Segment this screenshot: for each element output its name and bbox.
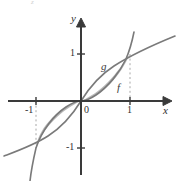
x-tick-label-positive-one: 1 [127, 105, 132, 115]
x-tick-label-negative-one: -1 [25, 105, 33, 115]
curve-label-f: f [117, 82, 120, 93]
y-tick-label-positive-one: 1 [70, 48, 75, 58]
x-axis-label: x [163, 105, 168, 116]
y-tick-label-negative-one: -1 [66, 142, 74, 152]
graph-canvas [0, 0, 177, 181]
curve-g [4, 36, 175, 156]
shaded-region-third-quadrant [36, 101, 81, 148]
cropped-top-label: z [31, 0, 34, 6]
y-axis-label: y [71, 13, 76, 24]
y-axis-arrowhead [77, 18, 86, 27]
curve-label-g: g [101, 61, 107, 72]
origin-label: 0 [84, 105, 89, 115]
function-graph-figure: z y x 0 -1 1 1 -1 g f [0, 0, 177, 181]
